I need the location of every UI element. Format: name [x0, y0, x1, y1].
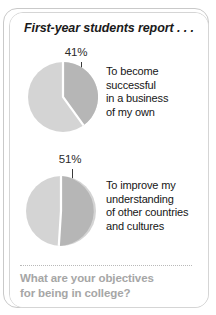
pie-1-description-line: To become — [106, 65, 202, 79]
pie-2-value-label: 51% — [52, 153, 88, 165]
pie-chart-1 — [28, 62, 98, 132]
footer-question-line: What are your objectives — [20, 271, 200, 286]
pie-1-description-line: successful — [106, 79, 202, 93]
pie-1-description-line: of my own — [106, 106, 202, 120]
pie-1-description: To become successful in a business of my… — [106, 65, 202, 119]
pie-chart-2 — [26, 176, 96, 246]
pie-2-description: To improve my understanding of other cou… — [106, 179, 202, 233]
pie-2-description-line: of other countries — [106, 206, 202, 220]
infographic-card: First-year students report . . . 41% To … — [10, 13, 208, 307]
pie-2-description-line: and cultures — [106, 220, 202, 234]
footer-question-line: for being in college? — [20, 286, 200, 301]
footer-question: What are your objectives for being in co… — [20, 271, 200, 301]
pie-2-description-line: understanding — [106, 193, 202, 207]
pie-1-value-label: 41% — [58, 46, 94, 58]
pie-1-description-line: in a business — [106, 92, 202, 106]
footer-divider — [20, 265, 192, 266]
page-title: First-year students report . . . — [24, 21, 200, 35]
pie-2-description-line: To improve my — [106, 179, 202, 193]
